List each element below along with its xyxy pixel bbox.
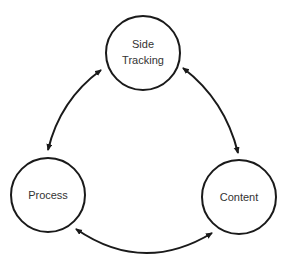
- node-label-side: Side: [132, 38, 154, 50]
- node-label-content: Content: [220, 191, 259, 203]
- edge-side-tracking-process: [48, 70, 101, 150]
- edge-process-content: [76, 229, 212, 253]
- diagram-svg: Side Tracking Process Content: [0, 0, 283, 261]
- node-label-tracking: Tracking: [122, 54, 164, 66]
- node-side-tracking: Side Tracking: [106, 16, 180, 90]
- node-content: Content: [202, 160, 276, 234]
- node-label-process: Process: [28, 189, 68, 201]
- edge-side-tracking-content: [183, 68, 238, 153]
- cycle-diagram: Side Tracking Process Content: [0, 0, 283, 261]
- node-process: Process: [11, 158, 85, 232]
